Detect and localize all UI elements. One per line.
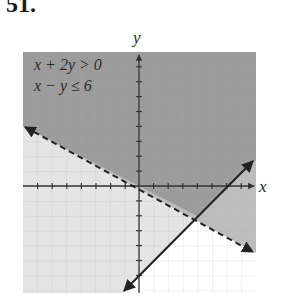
y-axis-label: y — [131, 28, 141, 47]
inequality-1-label: x + 2y > 0 — [33, 56, 102, 74]
x-axis-label: x — [258, 177, 267, 196]
inequality-graph: y x x + 2y > 0 x − y ≤ 6 — [0, 0, 282, 298]
inequality-2-label: x − y ≤ 6 — [33, 77, 92, 95]
